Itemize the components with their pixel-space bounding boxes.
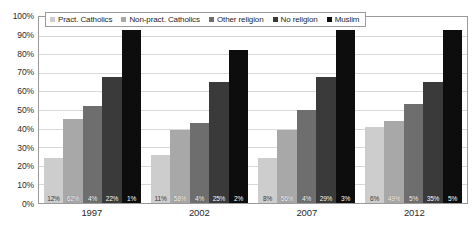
- y-axis-tick-label: 100%: [13, 12, 34, 21]
- bar-2002-non-pract-catholics: 58%: [170, 130, 190, 203]
- legend-swatch-icon: [209, 17, 214, 22]
- bar-slot: 12%: [44, 17, 64, 203]
- bar-1997-pract-catholics: 12%: [44, 158, 64, 203]
- bar-2012-non-pract-catholics: 49%: [384, 121, 404, 203]
- bar-data-label: 11%: [155, 195, 167, 202]
- legend-swatch-icon: [121, 17, 126, 22]
- y-axis-tick-label: 10%: [17, 181, 34, 190]
- bar-slot: 6%: [365, 17, 385, 203]
- bar-data-label: 62%: [67, 195, 79, 202]
- legend-item-pract-catholics: Pract. Catholics: [50, 15, 112, 24]
- bar-2007-non-pract-catholics: 56%: [277, 130, 297, 203]
- bar-1997-no-religion: 22%: [102, 77, 122, 203]
- bar-slot: 56%: [277, 17, 297, 203]
- legend-label: No religion: [281, 15, 318, 24]
- bar-data-label: 22%: [106, 195, 118, 202]
- y-axis-tick-label: 20%: [17, 162, 34, 171]
- bar-data-label: 8%: [263, 195, 272, 202]
- bar-2007-no-religion: 29%: [316, 77, 336, 203]
- bar-2002-no-religion: 25%: [209, 82, 229, 203]
- x-axis-tick-label: 2002: [146, 206, 254, 224]
- legend-swatch-icon: [50, 17, 55, 22]
- bar-data-label: 29%: [320, 195, 332, 202]
- bar-slot: 4%: [297, 17, 317, 203]
- bar-1997-other-religion: 4%: [83, 106, 103, 203]
- bar-slot: 58%: [170, 17, 190, 203]
- bar-slot: 2%: [229, 17, 249, 203]
- plot-area: 12%62%4%22%1%11%58%4%25%2%8%56%4%29%3%6%…: [38, 16, 468, 204]
- bar-2007-other-religion: 4%: [297, 110, 317, 203]
- bar-slot: 35%: [423, 17, 443, 203]
- legend-item-other-religion: Other religion: [209, 15, 264, 24]
- bar-2002-pract-catholics: 11%: [151, 155, 171, 203]
- legend-item-muslim: Muslim: [327, 15, 360, 24]
- bar-data-label: 3%: [341, 195, 350, 202]
- bar-slot: 22%: [102, 17, 122, 203]
- y-axis-tick-label: 90%: [17, 31, 34, 40]
- bar-data-label: 4%: [302, 195, 311, 202]
- bar-group-2002: 11%58%4%25%2%: [146, 17, 253, 203]
- bar-slot: 25%: [209, 17, 229, 203]
- x-axis-tick-label: 2007: [253, 206, 361, 224]
- bar-2012-muslim: 5%: [443, 30, 463, 203]
- bar-slot: 11%: [151, 17, 171, 203]
- bar-data-label: 5%: [409, 195, 418, 202]
- y-axis-tick-label: 50%: [17, 106, 34, 115]
- bar-slot: 29%: [316, 17, 336, 203]
- bar-2012-no-religion: 35%: [423, 82, 443, 203]
- bar-group-2007: 8%56%4%29%3%: [253, 17, 360, 203]
- x-axis-tick-label: 1997: [38, 206, 146, 224]
- legend-swatch-icon: [273, 17, 278, 22]
- y-axis-tick-label: 0%: [22, 200, 34, 209]
- legend-label: Non-pract. Catholics: [129, 15, 199, 24]
- y-axis-tick-label: 60%: [17, 87, 34, 96]
- bar-group-1997: 12%62%4%22%1%: [39, 17, 146, 203]
- bar-2007-pract-catholics: 8%: [258, 158, 278, 203]
- bar-slot: 4%: [83, 17, 103, 203]
- chart-legend: Pract. CatholicsNon-pract. CatholicsOthe…: [45, 12, 366, 27]
- bar-slot: 5%: [404, 17, 424, 203]
- bar-slot: 4%: [190, 17, 210, 203]
- bar-slot: 62%: [63, 17, 83, 203]
- bar-2002-muslim: 2%: [229, 50, 249, 203]
- bar-group-2012: 6%49%5%35%5%: [360, 17, 467, 203]
- y-axis-tick-label: 30%: [17, 144, 34, 153]
- bar-slot: 8%: [258, 17, 278, 203]
- bar-data-label: 4%: [88, 195, 97, 202]
- bar-data-label: 1%: [127, 195, 136, 202]
- bar-data-label: 56%: [281, 195, 293, 202]
- bar-chart: 100%90%80%70%60%50%40%30%20%10%0% 12%62%…: [0, 0, 473, 236]
- bar-data-label: 58%: [174, 195, 186, 202]
- bar-2007-muslim: 3%: [336, 30, 356, 203]
- y-axis-tick-label: 40%: [17, 125, 34, 134]
- x-axis: 1997200220072012: [38, 206, 468, 224]
- bar-slot: 3%: [336, 17, 356, 203]
- y-axis-tick-label: 80%: [17, 50, 34, 59]
- bar-data-label: 5%: [448, 195, 457, 202]
- legend-label: Muslim: [335, 15, 360, 24]
- bar-1997-muslim: 1%: [122, 30, 142, 203]
- bar-slot: 49%: [384, 17, 404, 203]
- bar-2012-other-religion: 5%: [404, 104, 424, 203]
- bar-slot: 1%: [122, 17, 142, 203]
- legend-item-no-religion: No religion: [273, 15, 318, 24]
- bar-data-label: 35%: [427, 195, 439, 202]
- bar-data-label: 6%: [370, 195, 379, 202]
- legend-label: Pract. Catholics: [58, 15, 112, 24]
- bar-data-label: 12%: [47, 195, 59, 202]
- bar-groups: 12%62%4%22%1%11%58%4%25%2%8%56%4%29%3%6%…: [39, 17, 467, 203]
- legend-swatch-icon: [327, 17, 332, 22]
- bar-1997-non-pract-catholics: 62%: [63, 119, 83, 203]
- bar-data-label: 2%: [234, 195, 243, 202]
- legend-label: Other religion: [217, 15, 264, 24]
- bar-data-label: 49%: [388, 195, 400, 202]
- bar-2012-pract-catholics: 6%: [365, 127, 385, 203]
- bar-data-label: 25%: [213, 195, 225, 202]
- legend-item-non-pract-catholics: Non-pract. Catholics: [121, 15, 199, 24]
- bar-slot: 5%: [443, 17, 463, 203]
- bar-data-label: 4%: [195, 195, 204, 202]
- y-axis-tick-label: 70%: [17, 68, 34, 77]
- y-axis: 100%90%80%70%60%50%40%30%20%10%0%: [0, 12, 36, 204]
- bar-2002-other-religion: 4%: [190, 123, 210, 203]
- x-axis-tick-label: 2012: [361, 206, 469, 224]
